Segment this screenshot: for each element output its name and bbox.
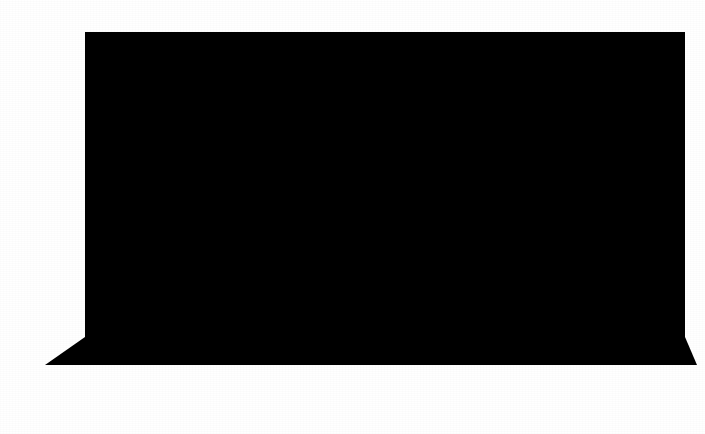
plot-background — [85, 32, 685, 337]
iq-distribution-chart — [0, 0, 705, 434]
floor-surface — [45, 337, 697, 365]
chart-canvas — [0, 0, 705, 434]
x-axis-floor — [45, 337, 697, 365]
